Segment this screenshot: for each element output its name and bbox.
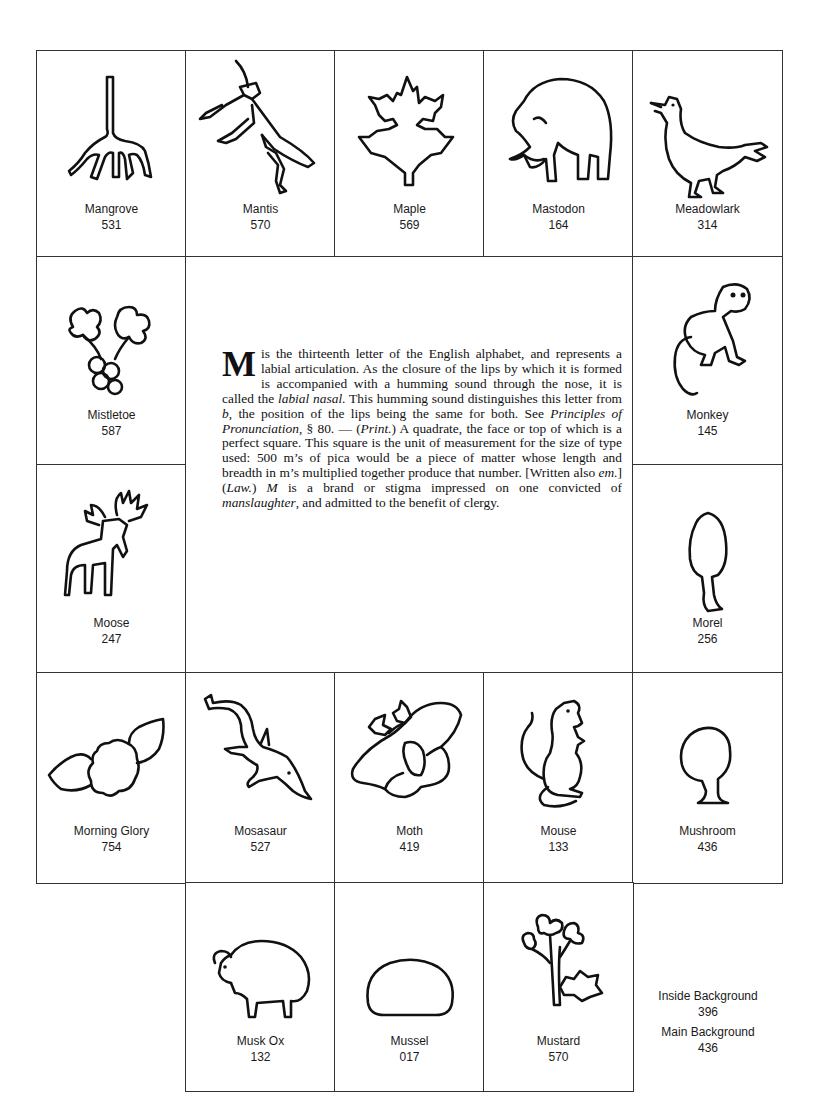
tile-morning-glory: Morning Glory 754 [36, 672, 187, 884]
definition-text: , the position of the lips being the sam… [229, 406, 551, 421]
tile-mistletoe: Mistletoe 587 [36, 256, 187, 466]
tile-monkey: Monkey 145 [632, 256, 783, 466]
mistletoe-icon [57, 299, 167, 399]
tile-code: 570 [484, 1049, 633, 1065]
tile-moose: Moose 247 [36, 464, 187, 674]
tile-name: Morel [633, 615, 782, 631]
tile-code: 133 [484, 839, 633, 855]
background-code: 396 [634, 1004, 782, 1020]
background-name: Inside Background [634, 988, 782, 1004]
mussel-icon [360, 953, 460, 1023]
definition-text: is a brand or stigma impressed on one co… [278, 480, 622, 495]
tile-label: Mustard 570 [484, 1033, 633, 1065]
mantis-icon [196, 57, 326, 197]
tile-label: Mouse 133 [484, 823, 633, 855]
tile-label: Mushroom 436 [633, 823, 782, 855]
background-name: Main Background [634, 1024, 782, 1040]
tile-name: Moose [37, 615, 186, 631]
tile-label: Morel 256 [633, 615, 782, 647]
mosasaur-icon [201, 691, 321, 811]
tile-name: Maple [335, 201, 484, 217]
tile-code: 527 [186, 839, 335, 855]
tile-label: Musk Ox 132 [186, 1033, 335, 1065]
mangrove-icon [57, 73, 167, 193]
tile-label: Mangrove 531 [37, 201, 186, 233]
meadowlark-icon [643, 89, 773, 209]
definition-italic: Law. [226, 480, 251, 495]
tile-name: Musk Ox [186, 1033, 335, 1049]
tile-name: Mistletoe [37, 407, 186, 423]
tile-maple: Maple 569 [334, 50, 485, 258]
mustard-icon [504, 907, 614, 1017]
tile-name: Mastodon [484, 201, 633, 217]
tile-label: Meadowlark 314 [633, 201, 782, 233]
tile-mouse: Mouse 133 [483, 672, 634, 884]
morning-glory-icon [47, 713, 177, 803]
definition-text: ) [252, 480, 267, 495]
inside-background-label: Inside Background 396 [634, 988, 782, 1020]
tile-code: 256 [633, 631, 782, 647]
definition-italic: M [267, 480, 278, 495]
tile-mantis: Mantis 570 [185, 50, 336, 258]
tile-name: Mustard [484, 1033, 633, 1049]
mushroom-icon [668, 723, 748, 813]
tile-musk-ox: Musk Ox 132 [185, 882, 336, 1092]
definition-text: . This humming sound distinguishes this … [342, 391, 622, 406]
tile-code: 436 [633, 839, 782, 855]
tile-label: Mosasaur 527 [186, 823, 335, 855]
mouse-icon [504, 697, 614, 817]
tile-name: Morning Glory [37, 823, 186, 839]
tile-mussel: Mussel 017 [334, 882, 485, 1092]
definition-italic: manslaughter [222, 495, 296, 510]
tile-moth: Moth 419 [334, 672, 485, 884]
tile-code: 754 [37, 839, 186, 855]
moose-icon [57, 485, 167, 615]
tile-name: Mosasaur [186, 823, 335, 839]
tile-name: Monkey [633, 407, 782, 423]
tile-code: 419 [335, 839, 484, 855]
drop-cap-letter: M [222, 349, 256, 379]
tile-label: Mistletoe 587 [37, 407, 186, 439]
tile-code: 314 [633, 217, 782, 233]
tile-name: Mantis [186, 201, 335, 217]
tile-code: 570 [186, 217, 335, 233]
tile-label: Mussel 017 [335, 1033, 484, 1065]
tile-code: 247 [37, 631, 186, 647]
main-background-label: Main Background 436 [634, 1024, 782, 1056]
tile-code: 132 [186, 1049, 335, 1065]
tile-label: Morning Glory 754 [37, 823, 186, 855]
tile-label: Moth 419 [335, 823, 484, 855]
tile-label: Moose 247 [37, 615, 186, 647]
mastodon-icon [494, 71, 624, 201]
tile-mastodon: Mastodon 164 [483, 50, 634, 258]
tile-name: Moth [335, 823, 484, 839]
tile-name: Mussel [335, 1033, 484, 1049]
tile-name: Mushroom [633, 823, 782, 839]
tile-label: Mastodon 164 [484, 201, 633, 233]
tile-label: Monkey 145 [633, 407, 782, 439]
tile-name: Mangrove [37, 201, 186, 217]
maple-leaf-icon [355, 73, 465, 193]
moth-icon [345, 695, 475, 805]
definition-italic: Print. [361, 421, 392, 436]
letter-m-definition: Mis the thirteenth letter of the English… [222, 347, 622, 511]
definition-italic: labial nasal [278, 391, 342, 406]
tile-meadowlark: Meadowlark 314 [632, 50, 783, 258]
tile-code: 017 [335, 1049, 484, 1065]
tile-code: 587 [37, 423, 186, 439]
definition-italic: em. [599, 465, 618, 480]
definition-text: , and admitted to the benefit of clergy. [296, 495, 500, 510]
morel-icon [668, 509, 748, 619]
tile-code: 145 [633, 423, 782, 439]
musk-ox-icon [201, 933, 321, 1023]
tile-code: 164 [484, 217, 633, 233]
tile-mushroom: Mushroom 436 [632, 672, 783, 884]
tile-mangrove: Mangrove 531 [36, 50, 187, 258]
tile-mosasaur: Mosasaur 527 [185, 672, 336, 884]
monkey-icon [653, 277, 763, 407]
background-legend: Inside Background 396 Main Background 43… [634, 988, 782, 1060]
definition-text: , § 80. — ( [299, 421, 361, 436]
definition-italic: b [222, 406, 229, 421]
tile-mustard: Mustard 570 [483, 882, 634, 1092]
tile-label: Maple 569 [335, 201, 484, 233]
